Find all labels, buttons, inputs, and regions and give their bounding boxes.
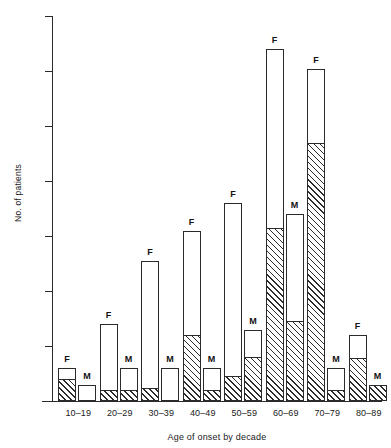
- bar-label-m: M: [368, 372, 388, 381]
- bar-group: FM: [307, 16, 348, 401]
- bar-group: FM: [100, 16, 141, 401]
- bar-hatched-segment: [349, 358, 367, 401]
- y-axis-title-wrap: No. of patients: [14, 0, 26, 385]
- bar-f: F: [349, 335, 367, 401]
- bar-m: M: [120, 368, 138, 401]
- bar-label-f: F: [306, 56, 326, 65]
- bar-hatched-segment: [203, 390, 221, 401]
- bar-label-f: F: [182, 218, 202, 227]
- bar-label-m: M: [77, 372, 97, 381]
- bar-m: M: [161, 368, 179, 401]
- bar-hatched-segment: [286, 321, 304, 401]
- bar-hatched-segment: [266, 228, 284, 401]
- y-tick-20: [45, 181, 52, 182]
- bar-group: FM: [349, 16, 390, 401]
- bar-group: FM: [141, 16, 182, 401]
- y-tick-25: [45, 126, 52, 127]
- bar-label-f: F: [223, 190, 243, 199]
- y-tick-5: [45, 346, 52, 347]
- bar-f: F: [58, 368, 76, 401]
- bar-m: M: [78, 385, 96, 402]
- bar-f: F: [266, 49, 284, 401]
- bar-m: M: [369, 385, 387, 402]
- bar-f: F: [141, 261, 159, 401]
- bar-label-m: M: [326, 355, 346, 364]
- bar-label-f: F: [57, 355, 77, 364]
- bar-f: F: [224, 203, 242, 401]
- x-tick-label: 80–89: [343, 408, 391, 418]
- bar-hatched-segment: [369, 385, 387, 402]
- bar-hatched-segment: [224, 376, 242, 401]
- bar-hatched-segment: [183, 335, 201, 401]
- bar-hatched-segment: [100, 390, 118, 401]
- bar-hatched-segment: [327, 390, 345, 401]
- bar-m: M: [244, 330, 262, 402]
- bar-label-f: F: [265, 36, 285, 45]
- bar-f: F: [100, 324, 118, 401]
- bar-hatched-segment: [120, 390, 138, 401]
- y-tick-15: [45, 236, 52, 237]
- bar-label-f: F: [99, 311, 119, 320]
- bar-label-m: M: [285, 201, 305, 210]
- y-axis-line: [52, 16, 53, 401]
- bar-m: M: [203, 368, 221, 401]
- bar-m: M: [327, 368, 345, 401]
- bar-label-m: M: [243, 317, 263, 326]
- bar-hatched-segment: [307, 143, 325, 402]
- y-tick-30: [45, 71, 52, 72]
- y-tick-35: [45, 16, 52, 17]
- bar-group: FM: [183, 16, 224, 401]
- bar-group: FM: [58, 16, 99, 401]
- bar-label-m: M: [202, 355, 222, 364]
- bar-label-m: M: [160, 355, 180, 364]
- cropped-caption-remnant: [40, 0, 240, 7]
- bar-f: F: [183, 231, 201, 402]
- y-axis-title: No. of patients: [13, 164, 23, 222]
- chart-figure: No. of patients 5101520253035 FMFMFMFMFM…: [0, 0, 391, 448]
- bar-m: M: [286, 214, 304, 401]
- y-tick-10: [45, 291, 52, 292]
- bar-hatched-segment: [58, 379, 76, 401]
- plot-area: 5101520253035 FMFMFMFMFMFMFMFM 10–1920–2…: [52, 16, 382, 401]
- bar-label-f: F: [348, 322, 368, 331]
- bar-hatched-segment: [244, 357, 262, 401]
- x-axis-line: [42, 401, 382, 402]
- bar-f: F: [307, 69, 325, 401]
- x-axis-title: Age of onset by decade: [52, 432, 382, 442]
- bar-label-f: F: [140, 248, 160, 257]
- bar-hatched-segment: [141, 388, 159, 401]
- bar-group: FM: [266, 16, 307, 401]
- bar-group: FM: [224, 16, 265, 401]
- bar-label-m: M: [119, 355, 139, 364]
